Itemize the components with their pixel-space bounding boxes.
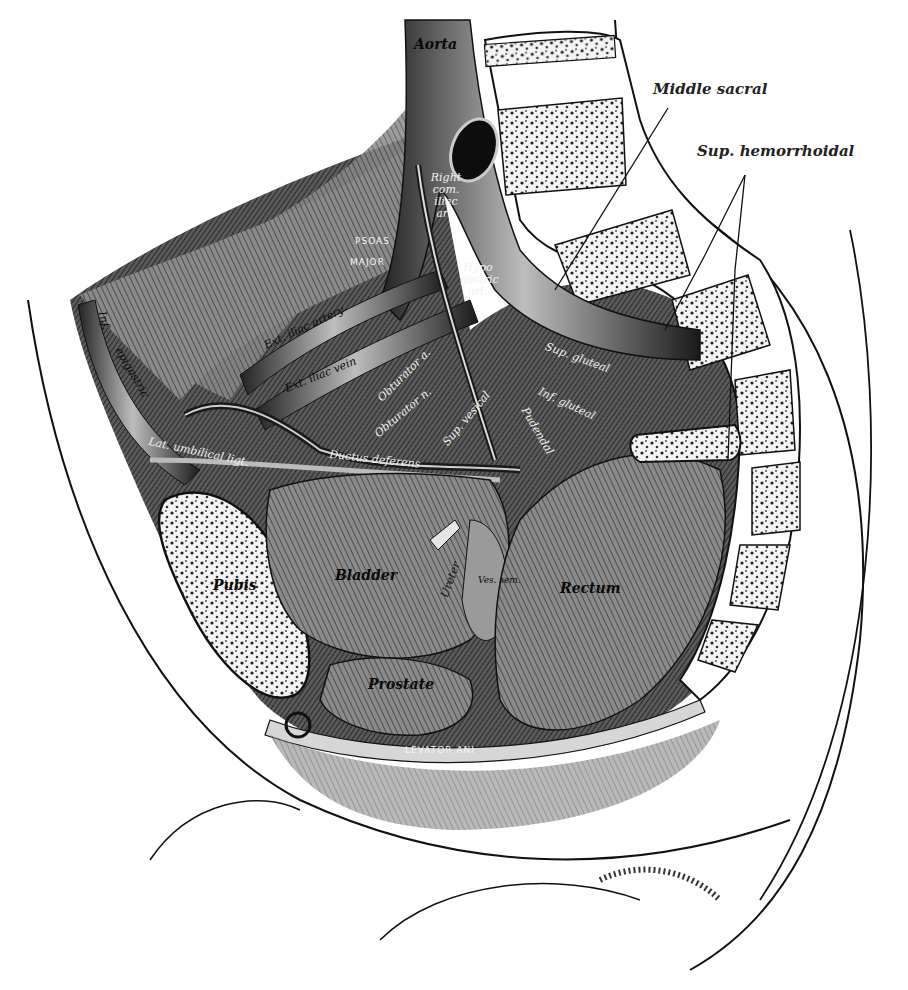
label-sup-hemorrhoidal: Sup. hemorrhoidal bbox=[697, 142, 854, 160]
label-rectum: Rectum bbox=[560, 580, 621, 596]
label-right-common-iliac: Right com. iliac art. bbox=[428, 172, 464, 220]
label-ves-sem: Ves. sem. bbox=[478, 575, 521, 585]
label-aorta: Aorta bbox=[414, 36, 457, 52]
label-hypogastric: Hypo gastric art. bbox=[460, 262, 496, 298]
label-bladder: Bladder bbox=[335, 567, 397, 583]
label-levator-ani: LEVATOR ANI bbox=[405, 745, 475, 755]
label-psoas-major: MAJOR bbox=[350, 257, 385, 267]
label-pubis: Pubis bbox=[213, 577, 257, 593]
label-middle-sacral: Middle sacral bbox=[653, 80, 767, 98]
label-prostate: Prostate bbox=[368, 676, 434, 692]
pelvis-illustration: Middle sacral Sup. hemorrhoidal Aorta Ri… bbox=[0, 0, 908, 990]
label-psoas: PSOAS bbox=[355, 236, 390, 246]
